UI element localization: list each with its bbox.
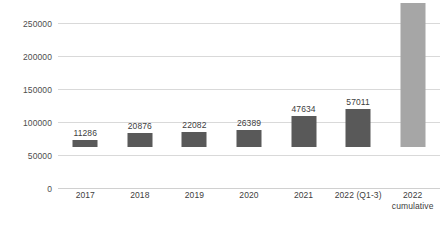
x-axis: 2017 2018 2019 2020 2021 2022 (Q1-3) 202… [58,190,440,229]
bars-layer: 11286 20876 22082 26389 47634 57011 2184… [58,0,440,188]
bar-slot-2018: 20876 [113,0,168,147]
x-label-2018: 2018 [113,190,168,201]
bar-value-2020: 26389 [237,118,261,128]
bar-2017[interactable] [73,140,98,147]
x-label-2022-cumulative-line1: 2022 [403,190,422,200]
bar-2019[interactable] [182,132,207,147]
bar-slot-2022-q1-3: 57011 [331,0,386,147]
x-label-2022-q1-3-line1: 2022 (Q1-3) [335,190,382,200]
x-label-2019-line1: 2019 [185,190,204,200]
y-tick-label-200000: 200000 [0,52,52,62]
axis-baseline [58,188,440,189]
y-tick-label-250000: 250000 [0,19,52,29]
y-tick-label-150000: 150000 [0,85,52,95]
x-label-2020-line1: 2020 [239,190,258,200]
bar-2022-cumulative[interactable] [400,3,425,147]
bar-slot-2017: 11286 [58,0,113,147]
x-label-2021-line1: 2021 [294,190,313,200]
bar-slot-2021: 47634 [276,0,331,147]
bar-2021[interactable] [291,116,316,147]
x-label-2022-cumulative-line2: cumulative [385,201,440,212]
bar-value-2017: 11286 [74,128,98,138]
bar-2022-q1-3[interactable] [346,109,371,147]
bar-2018[interactable] [127,133,152,147]
x-label-2021: 2021 [276,190,331,201]
bar-2020[interactable] [236,130,261,147]
bar-chart: 250000 200000 150000 100000 50000 0 1128… [0,0,448,229]
bar-value-2018: 20876 [128,121,152,131]
bar-value-2022-q1-3: 57011 [346,97,370,107]
x-label-2018-line1: 2018 [130,190,149,200]
x-label-2017-line1: 2017 [76,190,95,200]
bar-value-2019: 22082 [182,120,206,130]
y-tick-label-100000: 100000 [0,118,52,128]
y-tick-label-50000: 50000 [0,151,52,161]
x-label-2019: 2019 [167,190,222,201]
x-label-2022-q1-3: 2022 (Q1-3) [331,190,386,201]
bar-value-2021: 47634 [291,104,315,114]
bar-value-2022-cumulative: 218424 [398,0,427,1]
bar-slot-2019: 22082 [167,0,222,147]
x-label-2020: 2020 [222,190,277,201]
y-tick-label-0: 0 [0,184,52,194]
bar-slot-2022-cumulative: 218424 [385,0,440,147]
bar-slot-2020: 26389 [222,0,277,147]
x-label-2022-cumulative: 2022 cumulative [385,190,440,212]
x-label-2017: 2017 [58,190,113,201]
